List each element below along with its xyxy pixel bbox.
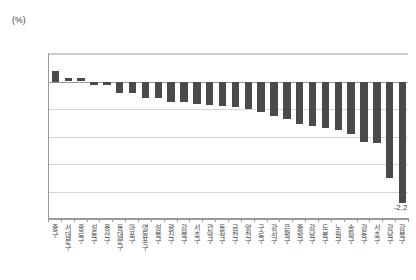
x-tick xyxy=(112,218,113,222)
bars-layer xyxy=(49,54,408,218)
bar xyxy=(296,82,303,125)
x-axis-label: 동대문구 xyxy=(115,224,123,251)
bar xyxy=(270,82,277,116)
bar xyxy=(386,82,393,178)
x-tick xyxy=(87,218,88,222)
bar xyxy=(142,82,149,99)
x-axis-label: 서초구 xyxy=(192,224,200,244)
x-axis-label: 서대문구 xyxy=(63,224,71,251)
bar xyxy=(257,82,264,112)
x-tick xyxy=(241,218,242,222)
x-axis-label: 중랑구 xyxy=(295,224,303,244)
bar xyxy=(103,82,110,86)
x-axis-label: 강서구 xyxy=(269,224,277,244)
bar-chart: (%) 0,50-0,5-1-1,5-2-2,5 중구서대문구종로구성동구용산구… xyxy=(0,0,416,280)
x-axis-label: 금천구 xyxy=(231,224,239,244)
bar xyxy=(219,82,226,107)
x-axis-label: 광진구 xyxy=(166,224,174,244)
x-tick xyxy=(99,218,100,222)
x-tick xyxy=(177,218,178,222)
x-axis-category-labels: 중구서대문구종로구성동구용산구동대문구마포구영등포구성북구광진구강북구서초구관악… xyxy=(48,224,408,278)
x-tick xyxy=(408,218,409,222)
bar xyxy=(52,71,59,82)
bar xyxy=(193,82,200,104)
bar xyxy=(373,82,380,144)
bar xyxy=(90,82,97,86)
x-axis-label: 동작구 xyxy=(218,224,226,244)
x-axis-label: 노원구 xyxy=(333,224,341,244)
x-tick xyxy=(228,218,229,222)
bar xyxy=(245,82,252,110)
x-axis-label: 성동구 xyxy=(89,224,97,244)
x-axis-label: 서초구 xyxy=(372,224,380,244)
bar xyxy=(283,82,290,119)
x-tick xyxy=(164,218,165,222)
x-tick xyxy=(369,218,370,222)
bar xyxy=(77,78,84,82)
bar-value-label: -2,2 xyxy=(394,203,408,212)
x-tick xyxy=(151,218,152,222)
x-tick xyxy=(331,218,332,222)
x-tick xyxy=(318,218,319,222)
x-tick xyxy=(74,218,75,222)
bar xyxy=(309,82,316,126)
bar xyxy=(335,82,342,130)
bar xyxy=(232,82,239,108)
bar xyxy=(116,82,123,93)
x-axis-label: 용산구 xyxy=(102,224,110,244)
x-axis-label: 구로구 xyxy=(256,224,264,244)
bar xyxy=(322,82,329,129)
x-axis-label: 강북구 xyxy=(179,224,187,244)
x-axis-label: 강동구 xyxy=(359,224,367,244)
x-axis-label: 송파구 xyxy=(346,224,354,244)
bar xyxy=(65,78,72,82)
x-tick xyxy=(215,218,216,222)
x-axis-label: 마포구 xyxy=(128,224,136,244)
x-tick xyxy=(189,218,190,222)
x-tick xyxy=(357,218,358,222)
y-axis-unit-label: (%) xyxy=(12,15,26,25)
x-axis-label: 영등포구 xyxy=(141,224,149,251)
x-axis-label: 도봉구 xyxy=(321,224,329,244)
x-tick xyxy=(279,218,280,222)
bar xyxy=(399,82,406,203)
bar xyxy=(129,82,136,93)
bar xyxy=(167,82,174,103)
x-axis-label: 중구 xyxy=(51,224,59,237)
x-axis-label: 관악구 xyxy=(205,224,213,244)
x-tick xyxy=(48,218,49,222)
x-tick xyxy=(305,218,306,222)
x-axis-label: 강남구 xyxy=(385,224,393,244)
x-tick xyxy=(61,218,62,222)
bar xyxy=(347,82,354,134)
x-axis-label: 강북구 xyxy=(398,224,406,244)
x-axis-label: 성북구 xyxy=(153,224,161,244)
x-axis-label: 종로구 xyxy=(76,224,84,244)
x-tick xyxy=(125,218,126,222)
plot-area xyxy=(48,53,408,218)
x-tick xyxy=(267,218,268,222)
x-tick xyxy=(344,218,345,222)
x-tick xyxy=(254,218,255,222)
x-tick xyxy=(202,218,203,222)
x-axis-label: 강남구 xyxy=(308,224,316,244)
x-tick xyxy=(138,218,139,222)
bar xyxy=(155,82,162,99)
x-axis-label: 양천구 xyxy=(243,224,251,244)
bar xyxy=(180,82,187,103)
x-axis-label: 은평구 xyxy=(282,224,290,244)
bar xyxy=(360,82,367,143)
x-tick xyxy=(395,218,396,222)
bar xyxy=(206,82,213,105)
x-tick xyxy=(382,218,383,222)
x-tick xyxy=(292,218,293,222)
